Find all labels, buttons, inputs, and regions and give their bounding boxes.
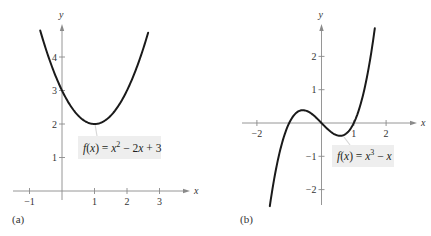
svg-text:−2: −2 (252, 128, 263, 139)
figure: x y −11231234 f(x) = x2 − 2x + 3 (a) x y… (0, 0, 431, 236)
y-axis-arrow-icon (60, 24, 64, 31)
label-pointer (344, 137, 350, 145)
panel-label: (a) (12, 213, 25, 226)
panel-label: (b) (240, 213, 253, 226)
y-axis-label: y (58, 9, 64, 20)
label-pointer (95, 124, 97, 136)
svg-text:3: 3 (52, 85, 57, 96)
svg-text:1: 1 (312, 84, 317, 95)
function-label: f(x) = x3 − x (337, 148, 393, 163)
graph-a-parabola: x y −11231234 f(x) = x2 − 2x + 3 (a) (12, 9, 199, 226)
svg-text:3: 3 (157, 196, 162, 207)
svg-text:1: 1 (92, 196, 97, 207)
svg-text:1: 1 (52, 152, 57, 163)
tick-marks: −11231234 (24, 52, 162, 208)
svg-text:−1: −1 (24, 196, 35, 207)
svg-text:−1: −1 (306, 151, 317, 162)
x-axis-arrow-icon (410, 121, 417, 125)
svg-text:−2: −2 (306, 184, 317, 195)
function-curve (40, 31, 148, 124)
svg-text:2: 2 (52, 119, 57, 130)
svg-text:2: 2 (125, 196, 130, 207)
svg-text:2: 2 (312, 51, 317, 62)
graph-b-cubic: x y −212−2−112 f(x) = x3 − x (b) (240, 9, 426, 226)
function-curve (270, 28, 375, 206)
x-axis-arrow-icon (183, 189, 190, 193)
svg-text:4: 4 (52, 52, 57, 63)
y-axis-arrow-icon (319, 24, 323, 31)
svg-text:2: 2 (384, 128, 389, 139)
y-axis-label: y (318, 9, 324, 20)
x-axis-label: x (420, 117, 426, 128)
x-axis-label: x (193, 185, 199, 196)
svg-text:1: 1 (351, 128, 356, 139)
function-label: f(x) = x2 − 2x + 3 (83, 140, 162, 155)
